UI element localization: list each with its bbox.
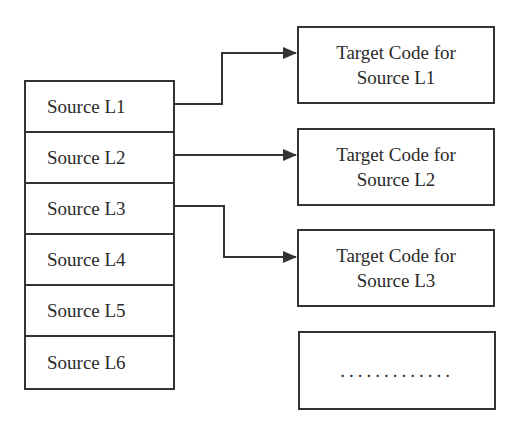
- source-label: Source L4: [47, 249, 126, 271]
- target-box-l2: Target Code for Source L2: [297, 128, 495, 206]
- target-line1: Target Code for: [336, 142, 456, 167]
- target-line2: Source L2: [357, 167, 436, 192]
- target-box-l3: Target Code for Source L3: [297, 229, 495, 307]
- source-label: Source L3: [47, 198, 126, 220]
- source-column: Source L1 Source L2 Source L3 Source L4 …: [24, 80, 175, 390]
- source-label: Source L1: [47, 96, 126, 118]
- target-box-l1: Target Code for Source L1: [297, 26, 495, 104]
- ellipsis-dots: .............: [340, 358, 454, 383]
- source-row-l3: Source L3: [26, 184, 173, 235]
- source-label: Source L2: [47, 147, 126, 169]
- target-line1: Target Code for: [336, 40, 456, 65]
- source-row-l6: Source L6: [26, 337, 173, 388]
- source-row-l5: Source L5: [26, 286, 173, 337]
- source-label: Source L6: [47, 352, 126, 374]
- target-box-ellipsis: .............: [298, 331, 496, 410]
- arrow-l1: [175, 53, 296, 104]
- diagram-canvas: Source L1 Source L2 Source L3 Source L4 …: [0, 0, 519, 429]
- target-line1: Target Code for: [336, 243, 456, 268]
- target-line2: Source L3: [357, 268, 436, 293]
- source-row-l2: Source L2: [26, 133, 173, 184]
- arrow-l3: [175, 206, 296, 257]
- source-label: Source L5: [47, 300, 126, 322]
- source-row-l4: Source L4: [26, 235, 173, 286]
- target-line2: Source L1: [357, 65, 436, 90]
- source-row-l1: Source L1: [26, 82, 173, 133]
